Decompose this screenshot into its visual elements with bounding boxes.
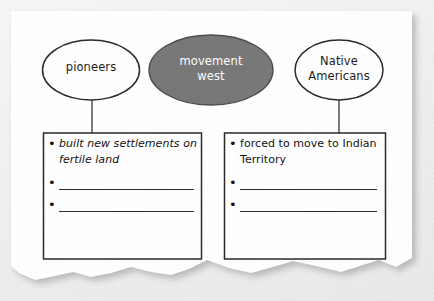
- bullet-glyph-icon: •: [48, 198, 59, 211]
- spacer: [229, 169, 381, 176]
- detail-box-left-content: • built new settlements on fertile land …: [48, 136, 198, 213]
- blank-write-in-line[interactable]: [59, 176, 194, 190]
- node-label-movement-west: movement west: [152, 54, 270, 83]
- bullet-glyph-icon: •: [229, 198, 240, 211]
- list-item[interactable]: •: [48, 198, 198, 212]
- list-item[interactable]: •: [229, 176, 381, 190]
- list-item-text: built new settlements on fertile land: [59, 136, 198, 167]
- bullet-glyph-icon: •: [48, 136, 59, 151]
- bullet-glyph-icon: •: [48, 176, 59, 189]
- list-item: • forced to move to Indian Territory: [229, 136, 381, 167]
- spacer: [48, 191, 198, 198]
- blank-write-in-line[interactable]: [240, 198, 377, 212]
- blank-write-in-line[interactable]: [59, 198, 194, 212]
- spacer: [229, 191, 381, 198]
- list-item[interactable]: •: [48, 176, 198, 190]
- list-item-text: forced to move to Indian Territory: [240, 136, 381, 167]
- worksheet-canvas: pioneers movement west Native Americans …: [0, 0, 434, 301]
- detail-box-right-content: • forced to move to Indian Territory • •: [229, 136, 381, 213]
- blank-write-in-line[interactable]: [240, 176, 377, 190]
- bullet-glyph-icon: •: [229, 176, 240, 189]
- list-item: • built new settlements on fertile land: [48, 136, 198, 167]
- list-item[interactable]: •: [229, 198, 381, 212]
- spacer: [48, 169, 198, 176]
- node-label-native-americans: Native Americans: [292, 54, 386, 83]
- bullet-glyph-icon: •: [229, 136, 240, 151]
- node-label-pioneers: pioneers: [42, 61, 140, 73]
